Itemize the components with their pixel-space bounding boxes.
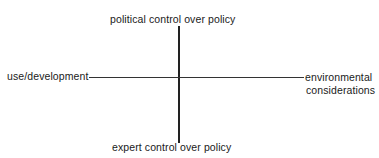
right-axis-label: environmental considerations xyxy=(305,71,375,96)
bottom-axis-label: expert control over policy xyxy=(112,141,231,153)
horizontal-axis-line xyxy=(89,77,304,78)
left-axis-label: use/development xyxy=(7,70,88,82)
right-axis-label-line2: considerations xyxy=(305,84,375,97)
right-axis-label-line1: environmental xyxy=(305,71,375,84)
top-axis-label: political control over policy xyxy=(110,13,235,25)
vertical-axis-line xyxy=(178,26,180,143)
